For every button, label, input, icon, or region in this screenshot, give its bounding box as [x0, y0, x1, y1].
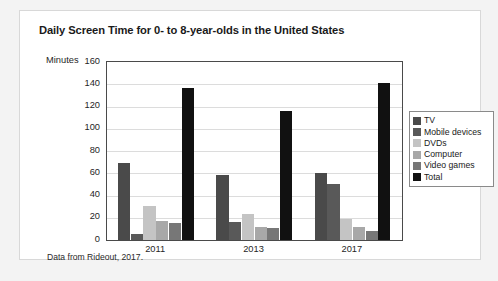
bar: [280, 111, 292, 240]
legend-item-label: Mobile devices: [424, 128, 481, 137]
bar: [143, 206, 155, 240]
bar: [216, 175, 228, 240]
y-axis-tick-label: 20: [74, 211, 100, 221]
legend-item-label: DVDs: [424, 139, 447, 148]
y-axis-tick-label: 40: [74, 189, 100, 199]
legend-swatch-icon: [413, 117, 421, 125]
chart-card: Daily Screen Time for 0- to 8-year-olds …: [19, 10, 481, 260]
bar: [378, 83, 390, 240]
legend-item-video-games: Video games: [413, 160, 489, 171]
legend-item-label: Total: [424, 173, 442, 182]
page-title: Daily Screen Time for 0- to 8-year-olds …: [39, 24, 344, 36]
legend-item-label: Computer: [424, 150, 462, 159]
legend-item-mobile-devices: Mobile devices: [413, 126, 489, 137]
plot-area: [106, 61, 403, 241]
bar: [327, 184, 339, 240]
gridline: [107, 129, 402, 130]
y-axis-tick-label: 100: [74, 122, 100, 132]
y-axis-tick-label: 0: [74, 234, 100, 244]
legend-swatch-icon: [413, 162, 421, 170]
bar: [340, 219, 352, 240]
gridline: [107, 173, 402, 174]
legend-item-label: Video games: [424, 161, 475, 170]
bar: [182, 88, 194, 240]
y-axis-tick-label: 60: [74, 167, 100, 177]
bar: [366, 231, 378, 240]
bar: [229, 222, 241, 240]
chart-legend: TVMobile devicesDVDsComputerVideo gamesT…: [409, 111, 494, 187]
x-axis-tick-label: 2017: [303, 244, 401, 254]
legend-item-dvds: DVDs: [413, 138, 489, 149]
legend-item-tv: TV: [413, 115, 489, 126]
gridline: [107, 84, 402, 85]
legend-item-total: Total: [413, 171, 489, 182]
y-axis-tick-label: 120: [74, 100, 100, 110]
bar: [156, 221, 168, 240]
source-note: Data from Rideout, 2017.: [47, 252, 143, 262]
y-axis-tick-label: 160: [74, 56, 100, 66]
x-axis-tick-label: 2013: [204, 244, 302, 254]
bar: [242, 214, 254, 240]
bar: [169, 223, 181, 240]
bar: [255, 227, 267, 240]
legend-item-label: TV: [424, 116, 435, 125]
bar: [267, 228, 279, 240]
legend-swatch-icon: [413, 128, 421, 136]
legend-swatch-icon: [413, 139, 421, 147]
gridline: [107, 107, 402, 108]
bar: [118, 163, 130, 240]
bar: [131, 234, 143, 240]
gridline: [107, 151, 402, 152]
bar: [353, 227, 365, 240]
bar: [315, 173, 327, 240]
y-axis-tick-label: 140: [74, 78, 100, 88]
y-axis-tick-label: 80: [74, 145, 100, 155]
legend-swatch-icon: [413, 173, 421, 181]
legend-item-computer: Computer: [413, 149, 489, 160]
gridline: [107, 196, 402, 197]
legend-swatch-icon: [413, 151, 421, 159]
